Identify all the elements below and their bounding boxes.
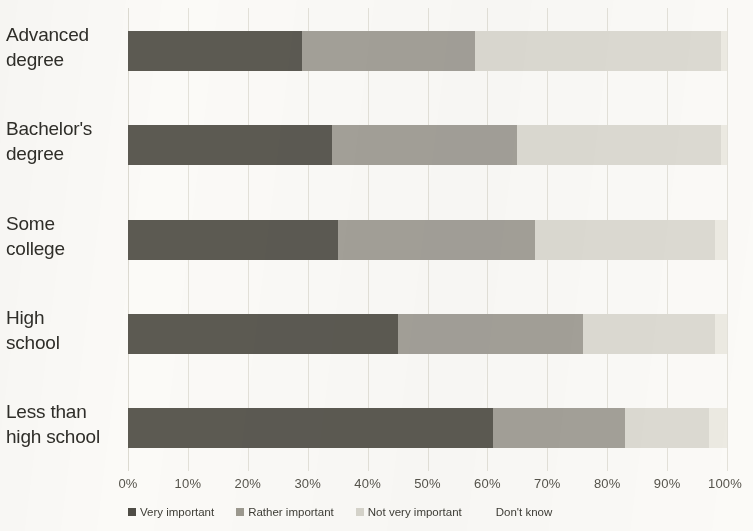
bar-segment-rather-important [493, 408, 625, 448]
legend-swatch-not-very-important-icon [356, 508, 364, 516]
category-label-high-school: High school [6, 305, 124, 355]
legend-item-very-important: Very important [128, 506, 214, 518]
category-label-bachelors-degree: Bachelor's degree [6, 116, 124, 166]
bar-segment-very-important [128, 408, 493, 448]
bar-segment-rather-important [332, 125, 518, 165]
bar-segment-dont-know [715, 220, 727, 260]
x-tick-label: 80% [594, 476, 621, 491]
x-tick-label: 10% [175, 476, 202, 491]
legend-item-not-very-important: Not very important [356, 506, 462, 518]
chart-legend: Very important Rather important Not very… [128, 506, 574, 518]
x-tick-label: 40% [354, 476, 381, 491]
legend-label: Don't know [496, 506, 553, 518]
category-label-line: Bachelor's [6, 116, 124, 141]
bar-segment-very-important [128, 220, 338, 260]
bar-segment-dont-know [715, 314, 727, 354]
x-tick-label: 70% [534, 476, 561, 491]
x-tick-label: 90% [654, 476, 681, 491]
category-label-line: Advanced [6, 22, 124, 47]
legend-swatch-rather-important-icon [236, 508, 244, 516]
bar-row [128, 220, 727, 260]
bar-segment-very-important [128, 125, 332, 165]
bar-segment-very-important [128, 31, 302, 71]
bar-segment-rather-important [398, 314, 584, 354]
bar-row [128, 31, 727, 71]
category-label-line: high school [6, 424, 124, 449]
bar-segment-not-very-important [625, 408, 709, 448]
legend-swatch-dont-know-icon [484, 508, 492, 516]
bar-segment-rather-important [302, 31, 476, 71]
bar-segment-not-very-important [535, 220, 715, 260]
x-tick-label: 50% [414, 476, 441, 491]
x-tick-label: 20% [234, 476, 261, 491]
bar-segment-dont-know [709, 408, 727, 448]
category-label-line: college [6, 236, 124, 261]
category-label-line: Less than [6, 399, 124, 424]
x-tick-label: 100% [708, 476, 742, 491]
legend-item-dont-know: Don't know [484, 506, 553, 518]
legend-label: Not very important [368, 506, 462, 518]
bar-segment-not-very-important [475, 31, 721, 71]
bar-row [128, 314, 727, 354]
category-label-line: Some [6, 211, 124, 236]
bar-segment-dont-know [721, 125, 727, 165]
legend-label: Very important [140, 506, 214, 518]
bar-segment-very-important [128, 314, 398, 354]
plot-area [128, 8, 727, 471]
legend-label: Rather important [248, 506, 334, 518]
stacked-bar-chart: Advanced degree Bachelor's degree Some c… [0, 0, 753, 531]
category-label-less-than-high-school: Less than high school [6, 399, 124, 449]
bar-segment-not-very-important [583, 314, 715, 354]
category-label-line: school [6, 330, 124, 355]
bar-segment-dont-know [721, 31, 727, 71]
x-tick-label: 0% [118, 476, 137, 491]
bar-row [128, 408, 727, 448]
x-tick-label: 60% [474, 476, 501, 491]
category-label-line: degree [6, 141, 124, 166]
legend-item-rather-important: Rather important [236, 506, 334, 518]
bar-segment-rather-important [338, 220, 536, 260]
legend-swatch-very-important-icon [128, 508, 136, 516]
category-label-line: High [6, 305, 124, 330]
category-label-advanced-degree: Advanced degree [6, 22, 124, 72]
category-label-some-college: Some college [6, 211, 124, 261]
x-tick-label: 30% [294, 476, 321, 491]
gridline-100 [727, 8, 728, 471]
bar-row [128, 125, 727, 165]
bar-segment-not-very-important [517, 125, 721, 165]
category-label-line: degree [6, 47, 124, 72]
x-axis-tick-labels: 0% 10% 20% 30% 40% 50% 60% 70% 80% 90% 1… [0, 476, 753, 496]
